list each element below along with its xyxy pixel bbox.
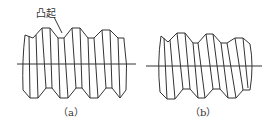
caption-a: （a） — [58, 104, 84, 119]
thread-b — [146, 33, 262, 99]
protrusion-label: 凸起 — [36, 5, 56, 20]
caption-b: （b） — [190, 104, 216, 119]
thread-a — [17, 17, 136, 98]
